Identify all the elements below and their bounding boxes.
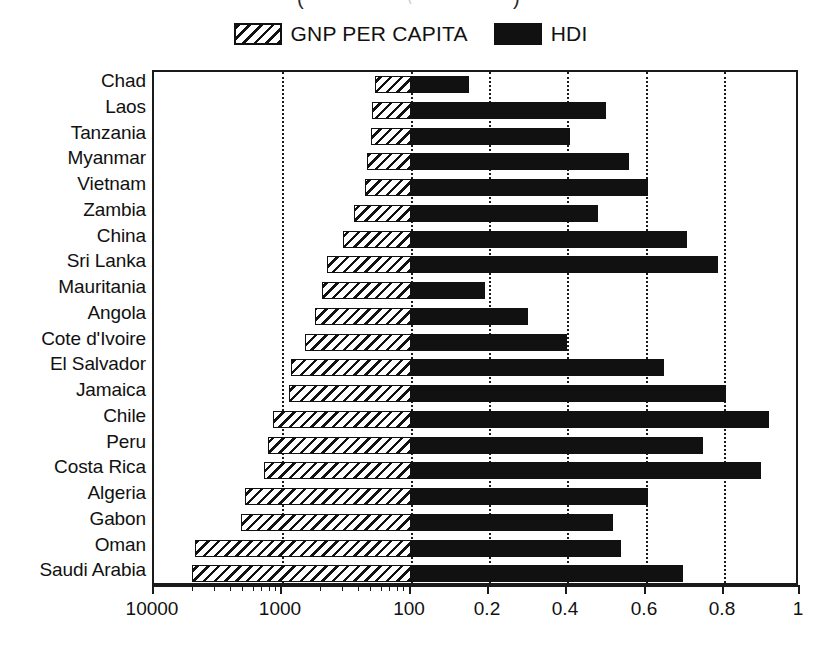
legend-label-gnp: GNP PER CAPITA [291, 22, 468, 46]
x-tick-minor [342, 585, 343, 591]
bar-gnp-chile [273, 411, 411, 428]
x-tick-10000 [152, 585, 154, 594]
bar-gnp-angola [315, 308, 411, 325]
bar-hdi-el-salvador [411, 359, 664, 376]
x-tick-minor [242, 585, 243, 591]
bar-row [154, 510, 796, 536]
bar-hdi-chile [411, 411, 769, 428]
x-tick-label-1000: 1000 [259, 598, 301, 620]
x-tick-minor [389, 585, 390, 591]
bar-hdi-china [411, 231, 687, 248]
x-tick-minor [403, 585, 404, 591]
bar-gnp-oman [195, 540, 411, 557]
legend-entry-hdi[interactable]: HDI [494, 22, 588, 46]
legend-swatch-solid-icon [494, 23, 542, 45]
bar-hdi-cote-d-ivoire [411, 334, 567, 351]
bar-row [154, 98, 796, 124]
x-tick-label-0.2: 0.2 [474, 598, 500, 620]
bar-hdi-angola [411, 308, 528, 325]
x-tick-minor [320, 585, 321, 591]
x-axis-line [152, 585, 798, 587]
x-tick-minor [397, 585, 398, 591]
legend-label-hdi: HDI [551, 22, 588, 46]
bar-gnp-china [343, 231, 411, 248]
y-axis-category-labels: ChadLaosTanzaniaMyanmarVietnamZambiaChin… [0, 70, 146, 585]
x-tick-0.2 [487, 585, 489, 594]
x-tick-label-10000: 10000 [126, 598, 179, 620]
x-tick-0.8 [722, 585, 724, 594]
legend-entry-gnp[interactable]: GNP PER CAPITA [234, 22, 468, 46]
x-tick-1 [798, 585, 800, 594]
bar-row [154, 175, 796, 201]
page-title: ( [0, 0, 821, 4]
bar-row [154, 355, 796, 381]
x-tick-minor [192, 585, 193, 591]
plot-area [152, 70, 798, 585]
bar-gnp-vietnam [365, 179, 411, 196]
x-tick-minor [214, 585, 215, 591]
y-axis-label: Mauritania [58, 274, 146, 300]
x-tick-minor [261, 585, 262, 591]
bar-rows [154, 72, 796, 583]
x-tick-label-100: 100 [393, 598, 425, 620]
y-axis-label: Vietnam [77, 171, 146, 197]
bar-gnp-jamaica [289, 385, 411, 402]
y-axis-label: Laos [105, 94, 146, 120]
y-axis-label: Chad [101, 68, 146, 94]
bar-hdi-peru [411, 437, 703, 454]
bar-gnp-myanmar [367, 153, 411, 170]
bar-hdi-gabon [411, 514, 613, 531]
x-tick-minor [269, 585, 270, 591]
y-axis-label: Peru [106, 429, 146, 455]
y-axis-label: China [97, 223, 146, 249]
y-axis-label: El Salvador [50, 351, 146, 377]
y-axis-label: Myanmar [68, 145, 146, 171]
y-axis-label: Chile [103, 403, 146, 429]
x-tick-100 [409, 585, 411, 594]
title-paren-left: ( [297, 0, 304, 10]
bar-row [154, 252, 796, 278]
y-axis-label: Cote d'Ivoire [41, 326, 146, 352]
bar-gnp-el-salvador [291, 359, 411, 376]
x-tick-minor [230, 585, 231, 591]
bar-gnp-peru [268, 437, 411, 454]
bar-gnp-sri-lanka [327, 256, 411, 273]
bar-row [154, 433, 796, 459]
y-axis-label: Saudi Arabia [39, 557, 146, 583]
legend-swatch-hatched-icon [234, 23, 282, 45]
bar-row [154, 149, 796, 175]
bar-gnp-costa-rica [264, 462, 411, 479]
x-tick-minor [275, 585, 276, 591]
bar-hdi-saudi-arabia [411, 565, 683, 582]
bar-hdi-chad [411, 76, 469, 93]
y-axis-label: Sri Lanka [67, 248, 146, 274]
x-tick-minor [381, 585, 382, 591]
bar-row [154, 407, 796, 433]
y-axis-label: Angola [87, 300, 146, 326]
x-axis: 1000010001000.20.40.60.81 [152, 585, 798, 645]
bar-hdi-jamaica [411, 385, 726, 402]
y-axis-label: Jamaica [76, 377, 146, 403]
x-tick-minor [370, 585, 371, 591]
bar-hdi-myanmar [411, 153, 629, 170]
y-axis-label: Gabon [89, 506, 146, 532]
bar-hdi-mauritania [411, 282, 485, 299]
bar-hdi-tanzania [411, 128, 570, 145]
bar-gnp-tanzania [371, 128, 411, 145]
x-tick-0.4 [565, 585, 567, 594]
bar-gnp-cote-d-ivoire [305, 334, 411, 351]
bar-row [154, 201, 796, 227]
x-tick-0.6 [644, 585, 646, 594]
bar-gnp-chad [375, 76, 411, 93]
title-paren-right: ) [513, 0, 520, 10]
bar-gnp-laos [372, 102, 411, 119]
bar-row [154, 561, 796, 587]
bar-row [154, 330, 796, 356]
bar-hdi-oman [411, 540, 621, 557]
bar-row [154, 227, 796, 253]
x-tick-minor [253, 585, 254, 591]
bar-row [154, 304, 796, 330]
x-tick-label-1: 1 [793, 598, 804, 620]
bar-hdi-costa-rica [411, 462, 761, 479]
x-tick-label-0.8: 0.8 [709, 598, 735, 620]
